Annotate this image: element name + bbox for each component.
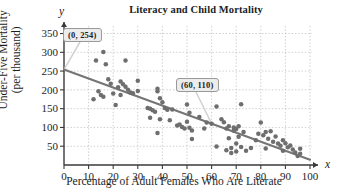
data-point: [116, 85, 121, 90]
data-point: [298, 151, 303, 156]
data-point: [91, 97, 96, 102]
data-point: [229, 146, 234, 151]
data-point: [148, 115, 153, 120]
data-point: [283, 141, 288, 146]
data-point: [224, 148, 229, 153]
data-point: [239, 145, 244, 150]
data-point: [170, 107, 175, 112]
data-point: [236, 124, 241, 129]
data-point: [190, 128, 195, 133]
y-tick-label: 300: [42, 46, 59, 58]
data-point: [123, 58, 128, 63]
data-point: [241, 130, 246, 135]
scatter-plot: 5010015020025030035001020304050607080901…: [0, 0, 338, 195]
data-point: [101, 50, 106, 55]
data-point: [155, 131, 160, 136]
data-point: [158, 96, 163, 101]
data-point: [204, 120, 209, 125]
chart-figure: Literacy and Child Mortality 50100150200…: [0, 0, 338, 195]
callout-intercept: (0, 254): [63, 28, 102, 42]
y-tick-label: 250: [42, 65, 59, 77]
tick-marks: [60, 34, 310, 169]
data-point: [244, 148, 249, 153]
data-point: [263, 146, 268, 151]
y-tick-label: 50: [47, 140, 59, 152]
x-axis-title: Percentage of Adult Females Who Are Lite…: [28, 175, 320, 187]
data-point: [288, 143, 293, 148]
data-point: [182, 126, 187, 131]
data-point: [153, 109, 158, 114]
data-point: [268, 129, 273, 134]
data-point: [160, 100, 165, 105]
data-point: [104, 62, 109, 67]
data-point: [254, 138, 259, 143]
data-point: [236, 135, 241, 140]
data-point: [185, 120, 190, 125]
data-point: [249, 146, 254, 151]
data-point: [259, 120, 264, 125]
data-point: [165, 108, 170, 113]
data-point: [234, 149, 239, 154]
y-axis-symbol: y: [58, 5, 65, 18]
data-point: [256, 132, 261, 137]
data-point: [111, 91, 116, 96]
y-axis-title-line1: Under-Five Mortality: [0, 0, 10, 123]
data-point: [101, 94, 106, 99]
data-point: [158, 117, 163, 122]
data-points: [91, 50, 302, 159]
y-tick-label: 200: [42, 84, 59, 96]
x-axis-arrow: [313, 162, 318, 168]
data-point: [168, 118, 173, 123]
data-point: [108, 82, 113, 87]
data-point: [94, 58, 99, 63]
data-point: [202, 126, 207, 131]
data-point: [281, 148, 286, 153]
data-point: [185, 102, 190, 107]
data-point: [136, 89, 141, 94]
data-point: [214, 104, 219, 109]
data-point: [273, 134, 278, 139]
tick-labels: 5010015020025030035001020304050607080901…: [42, 27, 319, 182]
data-point: [298, 147, 303, 152]
data-point: [209, 121, 214, 126]
data-point: [214, 144, 219, 149]
y-axis-title: Under-Five Mortality (per thousand): [0, 0, 23, 123]
data-point: [239, 102, 244, 107]
data-point: [197, 115, 202, 120]
data-point: [278, 144, 283, 149]
y-tick-label: 150: [42, 102, 59, 114]
data-point: [106, 77, 111, 82]
y-tick-label: 100: [42, 121, 59, 133]
data-point: [266, 136, 271, 141]
data-point: [227, 136, 232, 141]
data-point: [234, 141, 239, 146]
data-point: [136, 79, 141, 84]
y-axis-arrow: [61, 22, 67, 27]
y-axis-title-line2: (per thousand): [10, 0, 23, 123]
data-point: [227, 124, 232, 129]
data-point: [155, 89, 160, 94]
data-point: [131, 91, 136, 96]
callout-point: (60, 110): [176, 78, 219, 92]
data-point: [271, 139, 276, 144]
data-point: [118, 93, 123, 98]
data-point: [113, 103, 118, 108]
data-point: [96, 89, 101, 94]
data-point: [263, 130, 268, 135]
x-axis-symbol: x: [324, 158, 331, 170]
y-tick-label: 350: [42, 27, 59, 39]
data-point: [229, 151, 234, 156]
data-point: [222, 120, 227, 125]
data-point: [187, 111, 192, 116]
data-point: [190, 137, 195, 142]
